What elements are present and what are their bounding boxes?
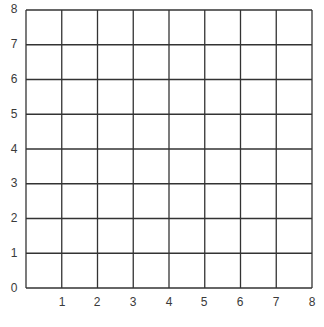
y-tick-label: 5 <box>8 108 20 120</box>
x-tick-label: 7 <box>269 296 283 308</box>
coordinate-grid-chart: 8 7 6 5 4 3 2 1 0 1 2 3 4 5 6 7 8 <box>0 0 324 327</box>
y-tick-label: 6 <box>8 73 20 85</box>
y-tick-label: 1 <box>8 247 20 259</box>
x-tick-label: 2 <box>90 296 104 308</box>
y-tick-label: 3 <box>8 177 20 189</box>
x-tick-label: 3 <box>126 296 140 308</box>
y-tick-label: 4 <box>8 143 20 155</box>
y-tick-label: 7 <box>8 38 20 50</box>
x-tick-label: 8 <box>305 296 319 308</box>
y-tick-label: 2 <box>8 212 20 224</box>
x-tick-label: 1 <box>55 296 69 308</box>
x-tick-label: 5 <box>197 296 211 308</box>
grid-lines <box>0 0 324 327</box>
x-tick-label: 4 <box>162 296 176 308</box>
y-tick-label: 8 <box>8 3 20 15</box>
y-tick-label: 0 <box>8 282 20 294</box>
x-tick-label: 6 <box>233 296 247 308</box>
